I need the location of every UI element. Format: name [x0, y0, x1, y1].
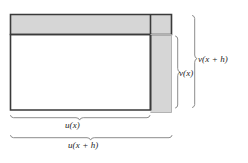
label-u-x: u(x): [65, 120, 80, 130]
label-v-x: v(x): [179, 68, 193, 78]
product-rule-area-diagram: v(x) v(x + h) u(x) u(x + h): [0, 0, 248, 163]
label-u-x-plus-h: u(x + h): [68, 140, 98, 150]
top-gray-band: [11, 15, 172, 35]
right-gray-band: [151, 34, 172, 113]
label-v-x-plus-h: v(x + h): [198, 54, 228, 64]
brace-v-x-plus-h: [193, 16, 198, 108]
diagram-canvas: [0, 0, 248, 163]
brace-u-x-line: [11, 116, 151, 121]
inner-white-rectangle: [11, 34, 151, 110]
